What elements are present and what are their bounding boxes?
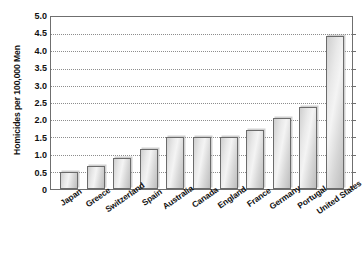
bar: [246, 130, 264, 189]
bar: [87, 166, 105, 189]
x-tick-slot: Portugal: [296, 192, 323, 252]
y-tick-label: 5.0: [34, 11, 47, 21]
bar-slot: [136, 17, 163, 189]
x-tick-slot: Canada: [189, 192, 216, 252]
y-tick-mark: [352, 155, 356, 156]
y-tick-mark: [352, 86, 356, 87]
bar-slot: [83, 17, 110, 189]
x-tick-slot: Switzerland: [108, 192, 135, 252]
bar: [220, 137, 238, 189]
x-tick-slot: Australia: [162, 192, 189, 252]
y-tick-mark: [352, 69, 356, 70]
bar-slot: [295, 17, 322, 189]
y-tick-label: 2.5: [34, 98, 47, 108]
bar-slot: [162, 17, 189, 189]
y-tick-label: 1.5: [34, 133, 47, 143]
bar: [299, 107, 317, 189]
x-tick-slot: United States: [322, 192, 349, 252]
bar-series: [51, 17, 352, 189]
y-tick-mark: [352, 51, 356, 52]
y-tick-mark: [352, 34, 356, 35]
plot-area: [50, 16, 353, 190]
bar-slot: [56, 17, 83, 189]
y-tick-mark: [352, 103, 356, 104]
bar: [193, 137, 211, 189]
bar: [166, 137, 184, 189]
x-tick-slot: Germany: [269, 192, 296, 252]
x-tick-slot: Spain: [135, 192, 162, 252]
y-tick-label: 4.5: [34, 28, 47, 38]
y-tick-label: 3.5: [34, 63, 47, 73]
x-axis-tick-labels: JapanGreeceSwitzerlandSpainAustraliaCana…: [50, 192, 353, 252]
bar: [113, 158, 131, 189]
bar-slot: [109, 17, 136, 189]
x-tick-slot: Japan: [55, 192, 82, 252]
x-tick-slot: England: [215, 192, 242, 252]
y-axis-tick-labels: 5.04.54.03.53.02.52.01.51.00.50: [19, 0, 47, 255]
y-tick-mark: [352, 137, 356, 138]
y-tick-mark: [352, 120, 356, 121]
y-tick-label: 0: [42, 185, 47, 195]
bar-slot: [268, 17, 295, 189]
y-tick-label: 0.5: [34, 168, 47, 178]
chart-figure: Homicides per 100,000 Men 5.04.54.03.53.…: [0, 0, 364, 255]
x-tick-slot: France: [242, 192, 269, 252]
y-tick-label: 1.0: [34, 150, 47, 160]
bar: [273, 118, 291, 189]
bar: [326, 36, 344, 189]
y-tick-mark: [352, 172, 356, 173]
bar-slot: [242, 17, 269, 189]
y-tick-label: 3.0: [34, 81, 47, 91]
bar-slot: [215, 17, 242, 189]
x-tick-slot: Greece: [82, 192, 109, 252]
y-tick-label: 2.0: [34, 115, 47, 125]
y-tick-label: 4.0: [34, 46, 47, 56]
bar-slot: [321, 17, 348, 189]
bar-slot: [189, 17, 216, 189]
